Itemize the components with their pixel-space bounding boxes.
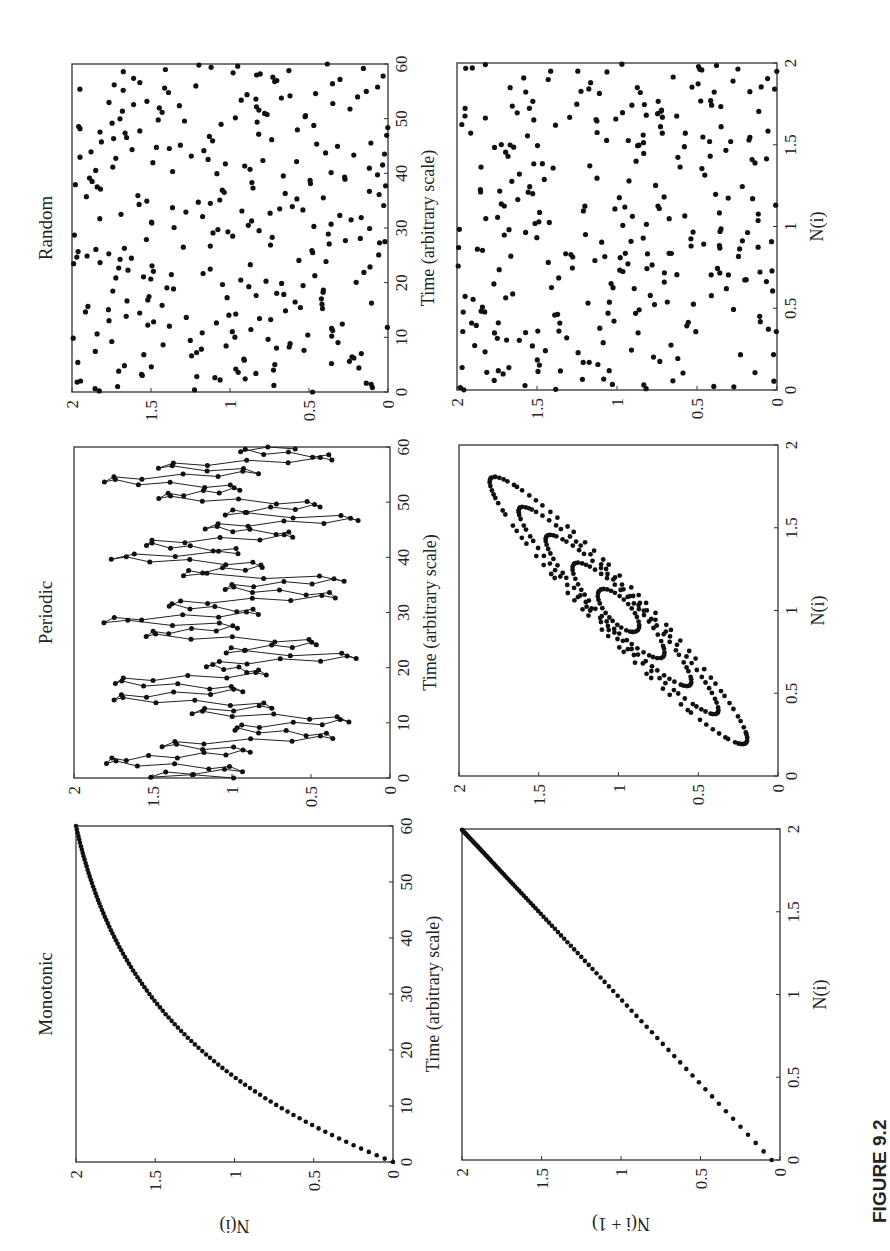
y-tick-label: 0.5 [302, 786, 321, 807]
y-tick-label: 1.5 [530, 784, 549, 805]
x-axis-label: Time (arbitrary scale) [423, 916, 444, 1072]
y-tick-label: 1 [226, 1170, 245, 1179]
y-tick-label: 1.5 [146, 1170, 165, 1191]
periodic-return-points [487, 475, 749, 747]
y-tick-label: 0.5 [689, 784, 708, 805]
x-tick-label: 0.5 [782, 683, 801, 704]
plot-frame [72, 64, 388, 392]
y-tick-label: 0 [768, 398, 787, 407]
figure-label: FIGURE 9.2 [869, 1120, 890, 1223]
y-tick-label: 2 [63, 400, 82, 409]
x-tick-label: 2 [781, 59, 800, 68]
x-tick-label: 0.5 [781, 298, 800, 319]
x-axis-label: N(i) [810, 980, 831, 1010]
x-axis-label: N(i) [807, 212, 828, 242]
periodic-series [101, 445, 360, 781]
x-axis-label: N(i) [808, 596, 829, 626]
y-tick-label: 1 [612, 1168, 631, 1177]
x-tick-label: 1.5 [782, 517, 801, 538]
figure-9-2: Monotonic010203040506000.511.52Time (arb… [0, 0, 890, 1251]
time-series-monotonic: 010203040506000.511.52Time (arbitrary sc… [67, 818, 444, 1237]
x-tick-label: 20 [392, 274, 411, 291]
x-tick-label: 60 [392, 56, 411, 73]
x-axis-label: Time (arbitrary scale) [418, 150, 439, 306]
y-tick-label: 0 [384, 1170, 403, 1179]
random-points [71, 61, 391, 394]
x-tick-label: 30 [397, 986, 416, 1003]
x-tick-label: 0 [397, 1158, 416, 1167]
plot-frame [459, 445, 778, 776]
x-tick-label: 10 [392, 329, 411, 346]
y-tick-label: 2 [448, 398, 467, 407]
y-tick-label: 0.5 [305, 1170, 324, 1191]
y-tick-label: 2 [67, 1170, 86, 1179]
x-tick-label: 0 [784, 1156, 803, 1165]
x-tick-label: 30 [392, 220, 411, 237]
x-tick-label: 10 [394, 714, 413, 731]
y-tick-label: 0 [769, 784, 788, 793]
y-axis-label: N(i + 1) [592, 1213, 650, 1234]
monotonic-points [74, 824, 396, 1165]
panel-title-random: Random [35, 196, 56, 261]
x-tick-label: 10 [397, 1098, 416, 1115]
y-tick-label: 1.5 [144, 786, 163, 807]
x-tick-label: 50 [392, 110, 411, 127]
panel-title-monotonic: Monotonic [35, 952, 56, 1035]
y-tick-label: 0.5 [688, 398, 707, 419]
y-tick-label: 0.5 [300, 400, 319, 421]
y-tick-label: 1 [223, 786, 242, 795]
y-tick-label: 0 [379, 400, 398, 409]
x-tick-label: 0 [392, 388, 411, 397]
x-tick-label: 0 [782, 772, 801, 781]
x-tick-label: 1.5 [784, 901, 803, 922]
y-tick-label: 2 [65, 786, 84, 795]
plot-frame [74, 447, 390, 778]
x-tick-label: 50 [397, 874, 416, 891]
y-tick-label: 1.5 [142, 400, 161, 421]
x-tick-label: 20 [397, 1042, 416, 1059]
x-tick-label: 2 [784, 825, 803, 834]
x-tick-label: 40 [394, 549, 413, 566]
y-tick-label: 1.5 [528, 398, 547, 419]
x-tick-label: 20 [394, 659, 413, 676]
x-tick-label: 0 [394, 774, 413, 783]
monotonic-return-points [460, 827, 774, 1162]
time-series-random: 010203040506000.511.52Time (arbitrary sc… [63, 56, 439, 422]
y-axis-label: N(i) [220, 1215, 250, 1236]
random-return-points [456, 62, 780, 393]
y-tick-label: 0.5 [692, 1168, 711, 1189]
return-map-random: 00.511.5200.511.52N(i) [448, 59, 828, 420]
x-tick-label: 1 [782, 606, 801, 615]
x-tick-label: 30 [394, 604, 413, 621]
x-tick-label: 50 [394, 494, 413, 511]
return-map-monotonic: 00.511.5200.511.52N(i)N(i + 1) [453, 825, 831, 1234]
x-tick-label: 60 [397, 818, 416, 835]
x-tick-label: 1 [784, 990, 803, 999]
y-tick-label: 1.5 [533, 1168, 552, 1189]
y-tick-label: 2 [450, 784, 469, 793]
y-tick-label: 0 [771, 1168, 790, 1177]
x-tick-label: 1.5 [781, 134, 800, 155]
x-tick-label: 40 [392, 165, 411, 182]
y-tick-label: 2 [453, 1168, 472, 1177]
y-tick-label: 1 [610, 784, 629, 793]
x-tick-label: 1 [781, 222, 800, 231]
x-tick-label: 40 [397, 930, 416, 947]
x-tick-label: 2 [782, 441, 801, 450]
y-tick-label: 1 [221, 400, 240, 409]
x-tick-label: 0 [781, 386, 800, 395]
panel-title-periodic: Periodic [35, 581, 56, 644]
plot-frame [76, 826, 393, 1162]
time-series-periodic: 010203040506000.511.52Time (arbitrary sc… [65, 439, 441, 808]
x-tick-label: 0.5 [784, 1067, 803, 1088]
x-axis-label: Time (arbitrary scale) [420, 534, 441, 690]
x-tick-label: 60 [394, 439, 413, 456]
y-tick-label: 1 [608, 398, 627, 407]
y-tick-label: 0 [381, 786, 400, 795]
